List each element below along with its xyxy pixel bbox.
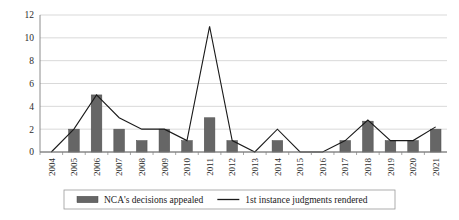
bar <box>159 129 170 152</box>
x-tick-label: 2013 <box>250 158 260 177</box>
bar <box>204 118 215 152</box>
legend-label-1st-instance-judgments-rendered: 1st instance judgments rendered <box>245 195 367 205</box>
x-tick-label: 2009 <box>160 158 170 177</box>
chart-legend: NCA's decisions appealed1st instance jud… <box>64 190 395 209</box>
bar <box>136 141 147 152</box>
y-tick-label: 4 <box>29 102 34 112</box>
x-tick-label: 2021 <box>431 158 441 176</box>
chart-background <box>0 0 459 220</box>
y-tick-label: 12 <box>25 10 35 20</box>
x-tick-label: 2011 <box>205 158 215 176</box>
x-tick-label: 2010 <box>182 158 192 177</box>
y-tick-label: 6 <box>29 79 34 89</box>
x-tick-label: 2004 <box>47 158 57 177</box>
y-tick-label: 0 <box>29 147 34 157</box>
bar <box>91 95 102 152</box>
x-tick-label: 2006 <box>92 158 102 177</box>
x-tick-label: 2005 <box>69 158 79 177</box>
bar <box>114 129 125 152</box>
x-tick-label: 2007 <box>114 158 124 177</box>
bar <box>408 141 419 152</box>
y-tick-label: 10 <box>25 33 35 43</box>
x-tick-label: 2016 <box>318 158 328 177</box>
legend-bar-swatch-icon <box>77 196 98 202</box>
x-tick-label: 2012 <box>227 158 237 176</box>
x-tick-label: 2018 <box>363 158 373 177</box>
y-tick-label: 2 <box>29 125 34 135</box>
x-tick-label: 2020 <box>408 158 418 177</box>
bar <box>272 141 283 152</box>
chart-container: 024681012 200420052006200720082009201020… <box>0 0 459 220</box>
x-tick-label: 2008 <box>137 158 147 177</box>
x-tick-label: 2017 <box>340 158 350 177</box>
chart-svg: 024681012 200420052006200720082009201020… <box>0 0 459 220</box>
bar <box>182 141 193 152</box>
x-tick-label: 2014 <box>273 158 283 177</box>
chart-plot-area: 024681012 200420052006200720082009201020… <box>0 0 459 220</box>
x-tick-label: 2015 <box>295 158 305 177</box>
bar <box>430 129 441 152</box>
x-tick-label: 2019 <box>386 158 396 177</box>
y-tick-label: 8 <box>29 56 34 66</box>
bar <box>363 121 374 152</box>
legend-label-nca-decisions-appealed: NCA's decisions appealed <box>104 195 204 205</box>
bar <box>385 141 396 152</box>
